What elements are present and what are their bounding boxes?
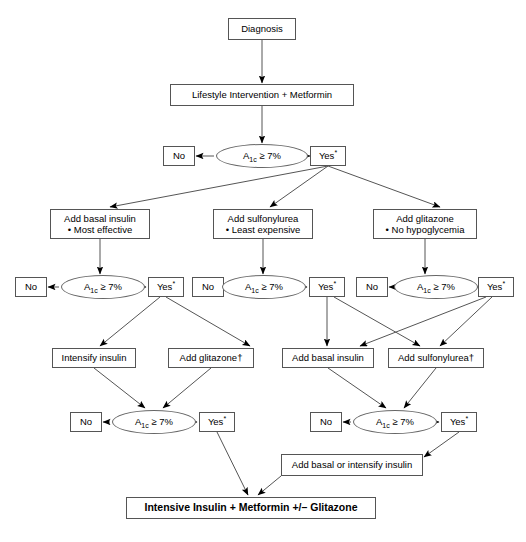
node-decision-a1c-2[interactable]: A1c ≥ 7%	[61, 275, 145, 299]
node-label: Yes*	[319, 150, 337, 162]
node-lifestyle-intervention-metformin[interactable]: Lifestyle Intervention + Metformin	[170, 84, 354, 106]
edge-sulfonylurea2-dec6	[404, 368, 436, 408]
treatment-algorithm-flowchart: Diagnosis Lifestyle Intervention + Metfo…	[0, 0, 526, 542]
node-no-4[interactable]: No	[356, 277, 388, 297]
node-label: Yes*	[487, 281, 505, 293]
node-add-sulfonylurea-least-expensive[interactable]: Add sulfonylurea • Least expensive	[213, 209, 313, 239]
node-label: Add glitazone†	[180, 352, 243, 364]
node-label: Lifestyle Intervention + Metformin	[192, 89, 332, 101]
edge-yes2-glitazone	[166, 297, 250, 346]
node-label-line1: Add sulfonylurea	[228, 213, 299, 225]
edge-yes2-intensify	[100, 297, 160, 346]
node-no-2[interactable]: No	[15, 277, 47, 297]
node-yes-4[interactable]: Yes*	[478, 277, 514, 297]
node-label: No	[202, 281, 214, 293]
node-label: No	[320, 416, 332, 428]
flowchart-connectors	[0, 0, 526, 542]
node-label: No	[80, 416, 92, 428]
edge-yes5-final	[217, 432, 248, 495]
node-decision-a1c-6[interactable]: A1c ≥ 7%	[353, 410, 437, 434]
node-label: No	[173, 150, 185, 162]
node-label-line2: • No hypoglycemia	[386, 224, 465, 236]
node-label: Yes*	[157, 281, 175, 293]
node-yes-6[interactable]: Yes*	[441, 412, 477, 432]
node-label: Intensive Insulin + Metformin +/– Glitaz…	[145, 502, 358, 514]
edge-addbasalint-final	[258, 476, 281, 495]
a1c-expression: A1c ≥ 7%	[243, 150, 281, 162]
node-label-line2: • Least expensive	[226, 224, 301, 236]
node-no-1[interactable]: No	[163, 146, 195, 166]
a1c-expression: A1c ≥ 7%	[84, 281, 122, 293]
node-label: No	[366, 281, 378, 293]
node-no-3[interactable]: No	[192, 277, 224, 297]
node-decision-a1c-3[interactable]: A1c ≥ 7%	[222, 275, 306, 299]
node-add-basal-or-intensify-insulin[interactable]: Add basal or intensify insulin	[281, 454, 423, 476]
node-yes-3[interactable]: Yes*	[309, 277, 345, 297]
a1c-expression: A1c ≥ 7%	[135, 416, 173, 428]
node-add-glitazone-dagger[interactable]: Add glitazone†	[168, 348, 254, 368]
node-label: No	[25, 281, 37, 293]
node-add-basal-insulin-2[interactable]: Add basal insulin	[282, 348, 374, 368]
edge-glitazone2-dec5	[163, 368, 211, 408]
node-no-6[interactable]: No	[310, 412, 342, 432]
node-label: Yes*	[450, 416, 468, 428]
edge-basal2-dec6	[328, 368, 386, 408]
node-label: Yes*	[318, 281, 336, 293]
node-decision-a1c-4[interactable]: A1c ≥ 7%	[394, 275, 478, 299]
node-label: Add basal insulin	[292, 352, 364, 364]
node-label-line1: Add glitazone	[396, 213, 454, 225]
node-label-line2: • Most effective	[68, 224, 132, 236]
node-label: Add basal or intensify insulin	[292, 459, 412, 471]
a1c-expression: A1c ≥ 7%	[417, 281, 455, 293]
a1c-expression: A1c ≥ 7%	[376, 416, 414, 428]
edge-yes1-glitazone	[328, 166, 440, 207]
node-label: Add sulfonylurea†	[398, 352, 474, 364]
edge-yes1-sulfonylurea	[270, 166, 328, 207]
edge-yes6-addbasalint	[424, 432, 459, 457]
node-label-line1: Add basal insulin	[64, 213, 136, 225]
node-add-basal-insulin-most-effective[interactable]: Add basal insulin • Most effective	[50, 209, 150, 239]
edge-yes3-sulfonylurea	[334, 297, 420, 346]
edge-yes4-sulfonylurea	[440, 297, 492, 346]
node-final-intensive-insulin-metformin-glitazone[interactable]: Intensive Insulin + Metformin +/– Glitaz…	[126, 497, 376, 519]
node-yes-5[interactable]: Yes*	[199, 412, 235, 432]
edge-yes1-basal	[110, 166, 328, 207]
a1c-expression: A1c ≥ 7%	[245, 281, 283, 293]
node-label: Diagnosis	[241, 23, 283, 35]
edge-yes4-basal	[360, 297, 486, 346]
node-decision-a1c-1[interactable]: A1c ≥ 7%	[216, 144, 308, 168]
node-add-glitazone-no-hypoglycemia[interactable]: Add glitazone • No hypoglycemia	[373, 209, 477, 239]
node-diagnosis[interactable]: Diagnosis	[228, 18, 296, 40]
node-label: Intensify insulin	[62, 352, 127, 364]
edge-intensify-dec5	[94, 368, 145, 408]
node-yes-2[interactable]: Yes*	[148, 277, 184, 297]
node-yes-1[interactable]: Yes*	[310, 146, 346, 166]
node-no-5[interactable]: No	[70, 412, 102, 432]
node-add-sulfonylurea-dagger[interactable]: Add sulfonylurea†	[388, 348, 484, 368]
node-label: Yes*	[208, 416, 226, 428]
node-decision-a1c-5[interactable]: A1c ≥ 7%	[112, 410, 196, 434]
node-intensify-insulin[interactable]: Intensify insulin	[52, 348, 136, 368]
